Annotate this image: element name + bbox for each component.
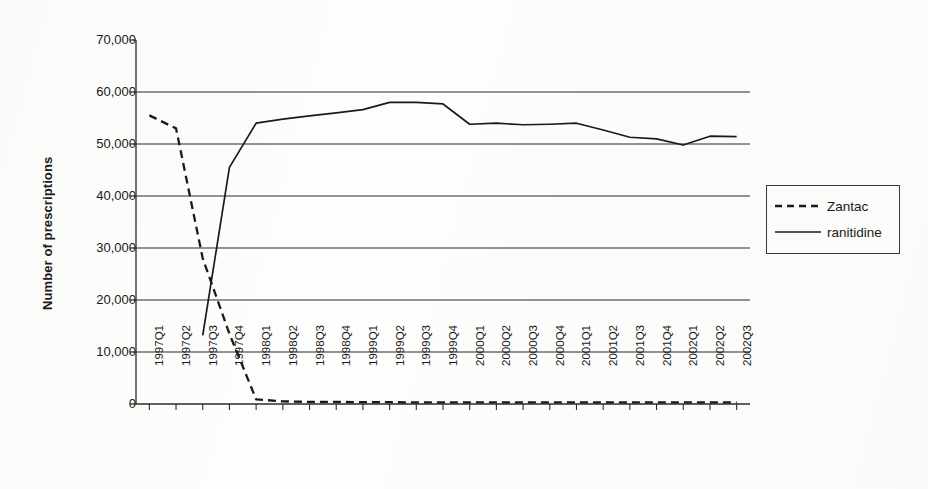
x-tick-label: 2001Q4	[662, 322, 673, 412]
x-tick-label: 1999Q1	[368, 322, 379, 412]
x-tick-label: 2002Q1	[688, 322, 699, 412]
x-tick-label: 2001Q1	[581, 322, 592, 412]
x-tick-label: 1999Q4	[448, 322, 459, 412]
x-tick-label: 1997Q3	[208, 322, 219, 412]
legend-item-ranitidine: ranitidine	[773, 219, 893, 245]
x-tick-label: 1998Q3	[315, 322, 326, 412]
x-tick-label: 1999Q2	[395, 322, 406, 412]
x-tick-label: 1998Q1	[261, 322, 272, 412]
x-tick-label: 2000Q2	[501, 322, 512, 412]
x-tick-label: 1997Q2	[181, 322, 192, 412]
legend-line-sample	[773, 200, 823, 212]
x-tick-label: 1998Q2	[288, 322, 299, 412]
x-tick-label: 2002Q3	[742, 322, 753, 412]
x-tick-label: 1998Q4	[341, 322, 352, 412]
x-tick-label: 2001Q3	[635, 322, 646, 412]
x-tick-label: 1997Q1	[154, 322, 165, 412]
prescriptions-line-chart: Number of prescriptions 010,00020,00030,…	[0, 0, 928, 489]
x-tick-label: 2000Q1	[475, 322, 486, 412]
x-tick-label: 1999Q3	[421, 322, 432, 412]
x-tick-label: 1997Q4	[234, 322, 245, 412]
x-tick-label: 2000Q4	[555, 322, 566, 412]
legend-label: ranitidine	[823, 225, 882, 240]
legend-item-zantac: Zantac	[773, 193, 893, 219]
legend-line-sample	[773, 226, 823, 238]
x-tick-label: 2001Q2	[608, 322, 619, 412]
chart-legend: Zantacranitidine	[766, 185, 900, 254]
x-tick-label: 2002Q2	[715, 322, 726, 412]
x-tick-label: 2000Q3	[528, 322, 539, 412]
legend-label: Zantac	[823, 199, 868, 214]
